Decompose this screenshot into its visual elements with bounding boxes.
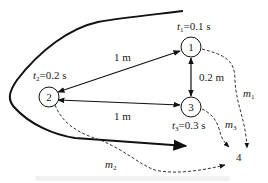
edge-label-m2: m2 xyxy=(105,158,117,172)
diagram-canvas: 1 2 3 4 t1=0.1 s t2=0.2 s t3=0.3 s 1 m 1… xyxy=(0,0,268,183)
edge-label-2-3: 1 m xyxy=(114,110,131,122)
time-label-2: t2=0.2 s xyxy=(33,69,67,83)
time-label-1: t1=0.1 s xyxy=(177,20,211,34)
node-2: 2 xyxy=(39,87,59,107)
edge-label-m1: m1 xyxy=(243,87,255,101)
edge-2-3 xyxy=(58,100,180,105)
node-4-label: 4 xyxy=(236,151,242,163)
node-3-label: 3 xyxy=(188,101,194,113)
edge-label-m3: m3 xyxy=(225,118,237,132)
edge-label-1-3: 0.2 m xyxy=(199,71,225,83)
faint-caption-remnant xyxy=(35,176,230,181)
edge-label-2-1: 1 m xyxy=(114,51,131,63)
node-1-label: 1 xyxy=(188,41,194,53)
node-2-label: 2 xyxy=(46,91,52,103)
node-3: 3 xyxy=(181,97,201,117)
edge-1-4 xyxy=(202,49,247,148)
node-1: 1 xyxy=(181,37,201,57)
time-label-3: t3=0.3 s xyxy=(172,119,206,133)
